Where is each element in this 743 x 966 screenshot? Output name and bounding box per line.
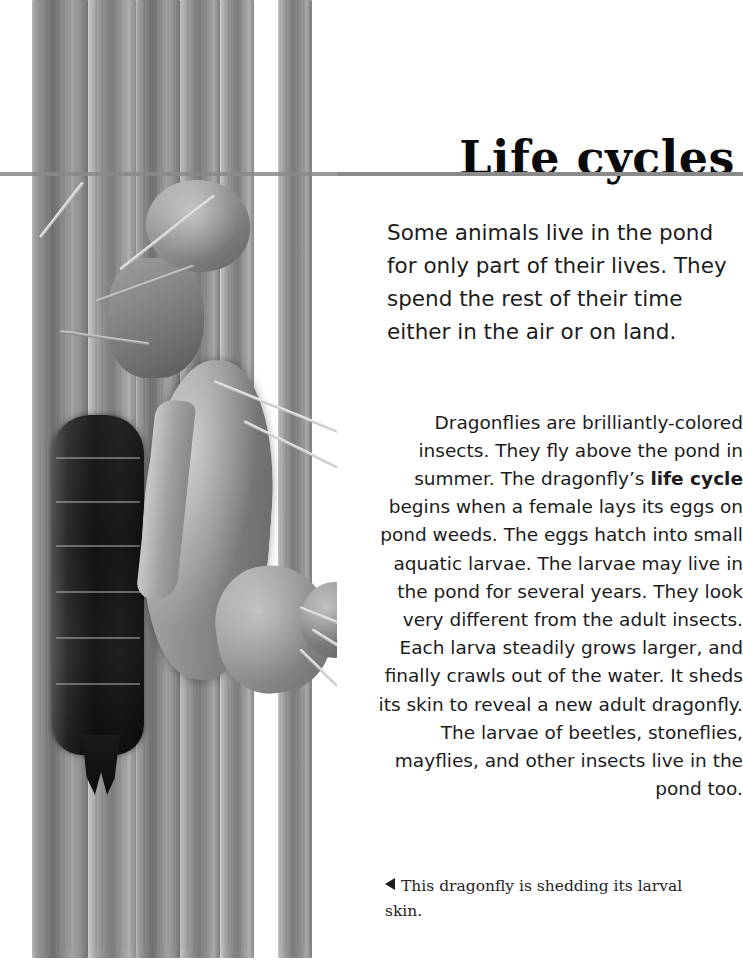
caption-text: This dragonfly is shedding its larval sk… (385, 877, 682, 920)
body-bold-term: life cycle (650, 468, 743, 489)
left-triangle-icon (385, 878, 395, 890)
body-paragraph: Dragonflies are brilliantly-colored inse… (361, 409, 743, 804)
photo-caption: This dragonfly is shedding its larval sk… (385, 874, 685, 924)
photograph-panel (0, 0, 337, 966)
larval-skin-head (146, 180, 250, 272)
horizontal-rule-left-segment (0, 172, 337, 176)
photo-bottom-edge (0, 958, 337, 966)
larval-skin (52, 415, 144, 755)
intro-paragraph: Some animals live in the pond for only p… (387, 216, 743, 348)
reed-stem (278, 0, 312, 958)
larval-skin-thorax (108, 258, 204, 378)
title-horizontal-rule (337, 172, 743, 176)
body-text-part-2: begins when a female lays its eggs on po… (379, 496, 743, 799)
text-column: Life cycles Some animals live in the pon… (337, 0, 743, 966)
